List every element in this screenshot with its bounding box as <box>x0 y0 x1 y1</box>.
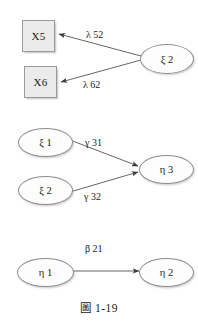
edge-xi2-to-eta3 <box>70 172 138 192</box>
node-xi1-mid[interactable]: ξ 1 <box>18 128 73 157</box>
node-x5-label: X5 <box>31 30 45 42</box>
edge-xi1-to-eta3 <box>70 140 138 166</box>
edge-label-lambda-52: λ 52 <box>86 29 103 40</box>
node-x6-label: X6 <box>33 76 47 88</box>
node-eta3[interactable]: η 3 <box>139 155 194 184</box>
node-eta2[interactable]: η 2 <box>139 258 194 287</box>
node-xi2-mid-label: ξ 2 <box>39 185 52 196</box>
node-xi2-top[interactable]: ξ 2 <box>140 44 194 74</box>
node-eta3-label: η 3 <box>160 164 173 175</box>
node-x6[interactable]: X6 <box>24 66 57 98</box>
edge-label-beta-21: β 21 <box>85 243 103 254</box>
node-eta1[interactable]: η 1 <box>17 258 74 287</box>
node-x5[interactable]: X5 <box>22 20 55 52</box>
edge-label-gamma-31: γ 31 <box>85 137 102 148</box>
node-eta1-label: η 1 <box>39 267 52 278</box>
figure-caption: 圖 1-19 <box>0 299 198 315</box>
edge-label-gamma-32: γ 32 <box>84 191 101 202</box>
node-eta2-label: η 2 <box>160 267 173 278</box>
node-xi2-top-label: ξ 2 <box>161 54 174 65</box>
node-xi2-mid[interactable]: ξ 2 <box>18 176 73 205</box>
node-xi1-mid-label: ξ 1 <box>39 137 52 148</box>
edge-label-lambda-62: λ 62 <box>83 79 100 90</box>
edge-xi2-to-x6 <box>61 60 141 82</box>
path-diagram-figure: X5 X6 ξ 2 λ 52 λ 62 ξ 1 ξ 2 η 3 γ 31 γ 3… <box>0 0 198 324</box>
